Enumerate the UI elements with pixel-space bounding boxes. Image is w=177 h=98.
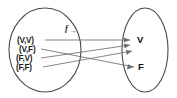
domain-item-vf: (V,F) — [19, 45, 36, 54]
codomain-item-v: V — [137, 34, 144, 45]
diagram-container: (V,V) (V,F) (F,V) (F,F) V F f → — [0, 0, 177, 98]
domain-item-fv: (F,V) — [16, 54, 33, 63]
mapping-diagram-canvas: (V,V) (V,F) (F,V) (F,F) V F f → — [0, 0, 177, 98]
domain-item-ff: (F,F) — [16, 63, 32, 72]
arrow-vv-to-v — [45, 37, 130, 42]
codomain-ellipse — [122, 8, 168, 92]
function-label-symbol: f — [65, 23, 69, 33]
function-label-subscript: → — [70, 27, 77, 34]
domain-item-vv: (V,V) — [17, 36, 34, 45]
codomain-item-f: F — [138, 61, 144, 72]
arrow-fv-to-v — [41, 44, 130, 59]
